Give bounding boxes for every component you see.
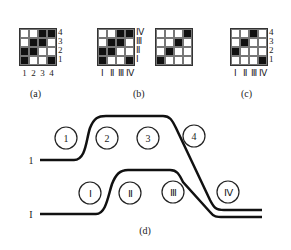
upper-circle-label: 3 bbox=[146, 133, 151, 144]
upper-path-label: 1 bbox=[29, 155, 34, 166]
lower-circle-label: Ⅲ bbox=[170, 187, 177, 198]
caption-d: (d) bbox=[139, 225, 151, 237]
upper-circle-label: 2 bbox=[105, 133, 110, 144]
lower-circle-label: Ⅳ bbox=[224, 187, 234, 198]
weave-path-diagram: 1 2 3 4 Ⅰ Ⅱ Ⅲ Ⅳ 1 I (d) bbox=[0, 0, 291, 250]
upper-circle-label: 1 bbox=[64, 133, 69, 144]
upper-circle-label: 4 bbox=[192, 131, 197, 142]
lower-circle-label: Ⅱ bbox=[128, 188, 133, 199]
lower-circle-label: Ⅰ bbox=[89, 188, 92, 199]
lower-path-label: I bbox=[29, 209, 32, 220]
